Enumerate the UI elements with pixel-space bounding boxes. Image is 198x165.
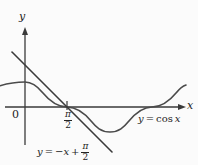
origin-label: 0 xyxy=(12,109,19,120)
fraction-numerator: π xyxy=(64,110,72,119)
cosine-tangent-line-figure: y x 0 π 2 y = cos x y = −x + π 2 xyxy=(0,0,198,165)
y-axis xyxy=(22,27,28,145)
line-label-plus: + xyxy=(71,147,79,157)
x-axis xyxy=(5,104,186,110)
tangent-line-label: y = −x + π 2 xyxy=(37,142,89,163)
cosine-label-function: cos xyxy=(156,114,173,124)
line-label-lhs: y xyxy=(37,147,43,157)
cosine-label-equals: = xyxy=(146,114,154,124)
cosine-label-argument: x xyxy=(175,114,181,124)
cosine-curve-label: y = cos x xyxy=(138,114,180,124)
tick-label-pi-over-2: π 2 xyxy=(60,110,76,131)
y-axis-arrowhead xyxy=(22,27,28,35)
line-label-term: −x xyxy=(55,147,69,157)
line-label-fraction: π 2 xyxy=(81,142,89,163)
fraction-denominator: 2 xyxy=(64,121,72,130)
line-fraction-denominator: 2 xyxy=(81,153,89,162)
plot-svg xyxy=(0,0,198,165)
cosine-label-lhs: y xyxy=(138,114,144,124)
line-fraction-numerator: π xyxy=(81,142,89,151)
fraction-pi-over-2: π 2 xyxy=(64,110,72,131)
tangent-line xyxy=(12,52,112,152)
x-axis-label: x xyxy=(187,100,193,111)
line-label-equals: = xyxy=(45,147,53,157)
x-axis-arrowhead xyxy=(178,104,186,110)
y-axis-label: y xyxy=(19,11,25,22)
